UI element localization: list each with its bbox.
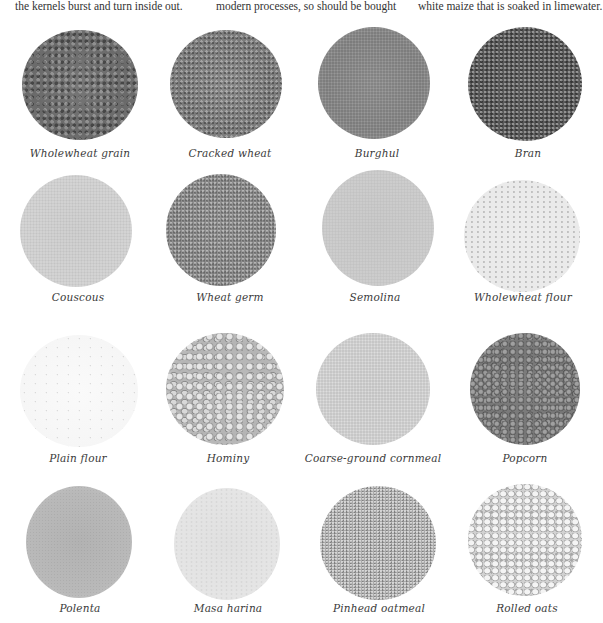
grain-photo: [316, 333, 430, 445]
grain-caption: Bran: [453, 147, 603, 159]
grain-photo: [468, 27, 582, 141]
grain-photo: [22, 30, 138, 140]
grain-photo: [20, 175, 132, 287]
grain-caption: Popcorn: [450, 452, 600, 464]
grain-caption: Polenta: [5, 602, 155, 614]
grain-photo: [166, 174, 276, 286]
grain-caption: Rolled oats: [452, 602, 602, 614]
grain-photo: [20, 335, 138, 447]
grain-photo: [464, 180, 580, 292]
grain-photo: [322, 170, 434, 286]
grain-photo: [320, 486, 436, 600]
grain-caption: Plain flour: [3, 452, 153, 464]
grain-photo: [174, 488, 280, 600]
grain-caption: Couscous: [3, 291, 153, 303]
grain-caption: Hominy: [153, 452, 303, 464]
grain-caption: Wholewheat flour: [448, 291, 598, 303]
grain-caption: Pinhead oatmeal: [304, 602, 454, 614]
grain-photo: [470, 333, 580, 445]
grain-caption: Wheat germ: [155, 291, 305, 303]
grain-caption: Cracked wheat: [155, 147, 305, 159]
grain-photo: [26, 486, 132, 598]
grain-photo: [468, 484, 582, 596]
grain-photo: [166, 333, 284, 445]
grain-photo: [170, 30, 282, 138]
grain-caption: Coarse-ground cornmeal: [298, 452, 448, 464]
grain-caption: Masa harina: [153, 602, 303, 614]
grain-photo: [318, 27, 430, 139]
grain-caption: Semolina: [300, 291, 450, 303]
grain-caption: Burghul: [302, 147, 452, 159]
grain-caption: Wholewheat grain: [5, 147, 155, 159]
